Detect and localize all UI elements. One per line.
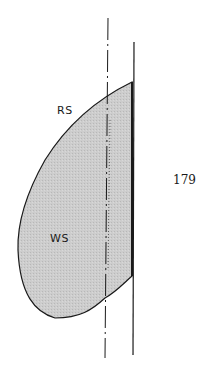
page-number: 179 — [173, 173, 196, 187]
diagram-canvas: RS WS 179 — [0, 0, 199, 389]
solid-vertical-line — [133, 42, 134, 355]
region-label-ws: WS — [50, 232, 69, 245]
shaded-region — [18, 82, 132, 318]
shape-diagram — [0, 0, 199, 389]
region-label-rs: RS — [57, 104, 73, 117]
